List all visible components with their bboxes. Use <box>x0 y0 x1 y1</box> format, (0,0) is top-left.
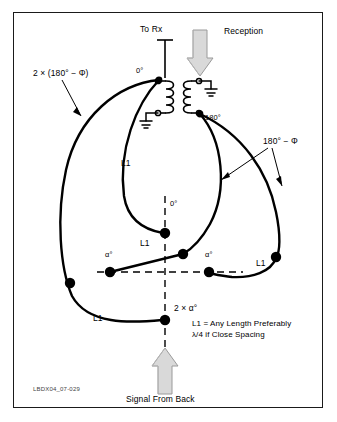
leader-left <box>62 80 81 116</box>
node-alpha-right <box>204 267 214 277</box>
figure-id-code: LBDX04_07-029 <box>33 384 80 394</box>
node-inner-right <box>178 249 188 259</box>
label-note-line2: λ/4 if Close Spacing <box>192 329 322 340</box>
node-left-outer <box>65 278 75 288</box>
label-phase-top: 0° <box>136 66 143 76</box>
transformer-secondary-coil <box>184 81 198 113</box>
label-phase-transformer-out: 180° <box>205 113 221 123</box>
label-signal-from-back: Signal From Back <box>126 394 195 404</box>
node-bottom <box>160 315 170 325</box>
label-note-line1: L1 = Any Length Preferably <box>192 318 322 329</box>
label-l1-center: L1 <box>140 238 150 248</box>
label-reception: Reception <box>224 26 263 36</box>
wire-center-slant <box>110 254 183 272</box>
leader-right <box>221 148 282 186</box>
antenna-phasing-diagram <box>0 0 337 422</box>
transformer-primary-coil <box>160 81 174 113</box>
label-alpha-left: α° <box>105 250 113 260</box>
figure-canvas: To Rx Reception 0° 180° 2 × (180° − Φ) 1… <box>0 0 337 422</box>
node-center-top <box>160 228 170 238</box>
ground-symbol-secondary-icon <box>199 81 217 96</box>
node-secondary-out <box>197 111 204 118</box>
node-feed-top <box>156 77 163 84</box>
label-l1-right: L1 <box>256 258 266 268</box>
reception-arrow-icon <box>187 30 213 76</box>
wire-inner-right <box>183 114 221 254</box>
label-to-rx: To Rx <box>140 24 162 34</box>
signal-from-back-arrow-icon <box>152 348 178 394</box>
label-right-leader: 180° − Φ <box>263 136 298 146</box>
ground-symbol-primary-icon <box>140 113 158 128</box>
feedline-to-rx <box>157 40 173 78</box>
label-alpha-right: α° <box>205 250 213 260</box>
node-alpha-left <box>105 267 115 277</box>
label-phase-center: 0° <box>170 199 177 209</box>
label-l1-bottom: L1 <box>93 313 103 323</box>
label-l1-left: L1 <box>121 158 131 168</box>
wire-inner-left <box>123 80 163 233</box>
label-phase-bottom: 2 × α° <box>174 303 197 313</box>
label-left-leader: 2 × (180° − Φ) <box>33 68 89 78</box>
node-right-outer <box>271 252 281 262</box>
